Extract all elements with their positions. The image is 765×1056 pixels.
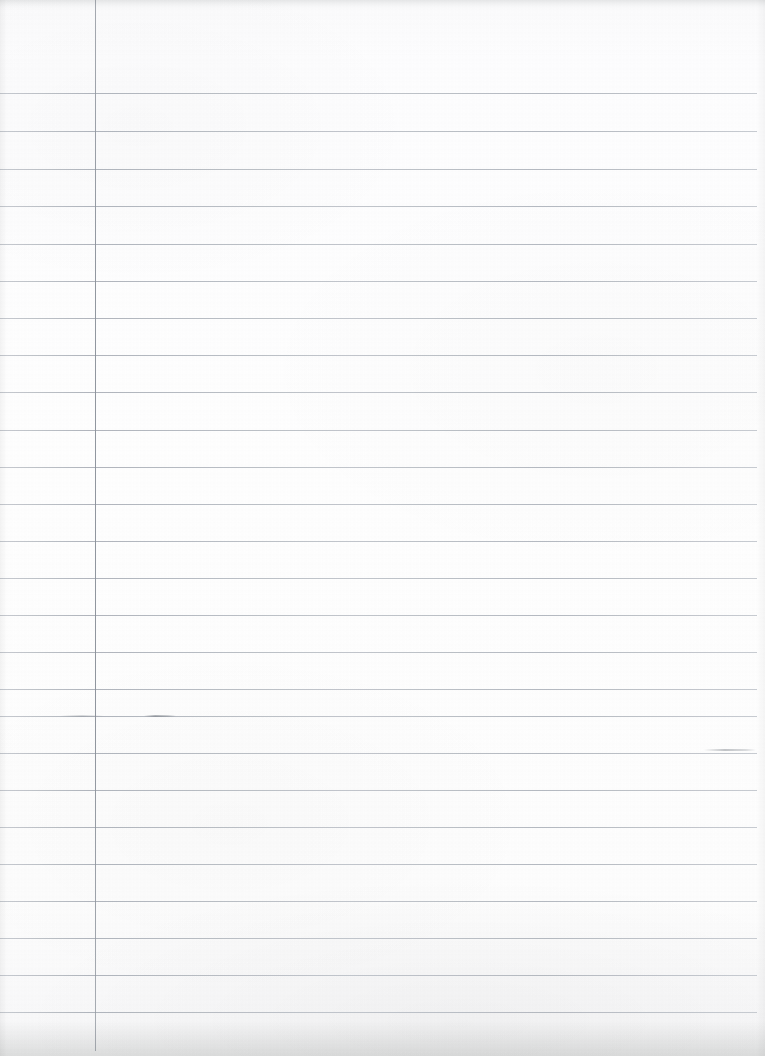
notebook-page [0,0,765,1056]
writing-area [96,0,765,1056]
margin-column [0,0,95,1056]
